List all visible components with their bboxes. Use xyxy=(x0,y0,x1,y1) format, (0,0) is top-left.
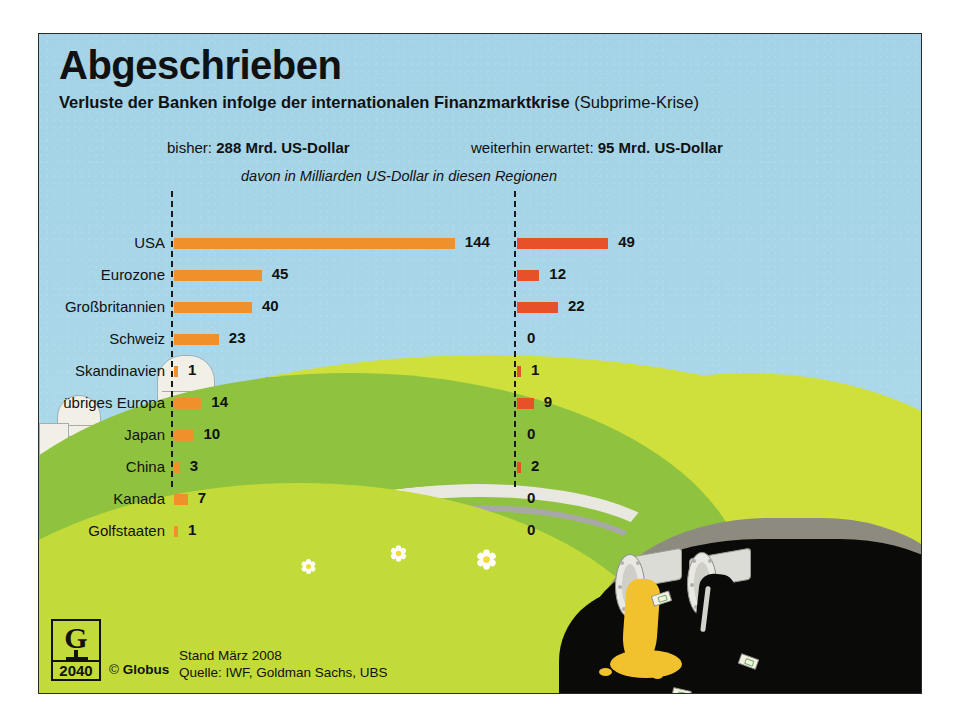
category-label: übriges Europa xyxy=(39,394,165,411)
value-bisher: 1 xyxy=(188,521,196,538)
copyright: © Globus xyxy=(109,662,169,677)
left-total: bisher: 288 Mrd. US-Dollar xyxy=(167,139,350,156)
bar-bisher xyxy=(174,334,219,345)
bar-erwartet xyxy=(517,270,539,281)
bar-bisher xyxy=(174,494,188,505)
category-label: Japan xyxy=(39,426,165,443)
bar-bisher xyxy=(174,302,252,313)
page-subtitle: Verluste der Banken infolge der internat… xyxy=(59,93,699,112)
left-total-label: bisher: xyxy=(167,139,216,156)
subtitle-light: (Subprime-Krise) xyxy=(570,93,699,111)
value-bisher: 3 xyxy=(190,457,198,474)
value-erwartet: 0 xyxy=(527,329,535,346)
globus-logo: G 2040 xyxy=(51,619,101,681)
value-erwartet: 1 xyxy=(531,361,539,378)
unit-note: davon in Milliarden US-Dollar in diesen … xyxy=(189,168,609,184)
chart-row: Golfstaaten10 xyxy=(39,517,921,549)
value-bisher: 1 xyxy=(188,361,196,378)
chart-row: Japan100 xyxy=(39,421,921,453)
source-line: Quelle: IWF, Goldman Sachs, UBS xyxy=(179,665,388,680)
value-bisher: 7 xyxy=(198,489,206,506)
infographic-canvas: Abgeschrieben Verluste der Banken infolg… xyxy=(0,0,960,724)
value-bisher: 40 xyxy=(262,297,279,314)
chart-row: China32 xyxy=(39,453,921,485)
right-total-label: weiterhin erwartet: xyxy=(471,139,598,156)
bar-erwartet xyxy=(517,302,558,313)
value-bisher: 14 xyxy=(211,393,228,410)
value-bisher: 144 xyxy=(465,233,490,250)
bar-erwartet xyxy=(517,462,521,473)
logo-number: 2040 xyxy=(53,660,99,679)
category-label: Skandinavien xyxy=(39,362,165,379)
category-label: USA xyxy=(39,234,165,251)
chart-row: Großbritannien4022 xyxy=(39,293,921,325)
bar-bisher xyxy=(174,270,262,281)
bar-erwartet xyxy=(517,398,534,409)
category-label: Eurozone xyxy=(39,266,165,283)
value-erwartet: 0 xyxy=(527,489,535,506)
bar-bisher xyxy=(174,430,194,441)
left-total-value: 288 Mrd. US-Dollar xyxy=(216,139,349,156)
copyright-name: Globus xyxy=(123,662,170,677)
category-label: China xyxy=(39,458,165,475)
chart-row: Schweiz230 xyxy=(39,325,921,357)
category-label: Golfstaaten xyxy=(39,522,165,539)
bar-bisher xyxy=(174,526,178,537)
right-total: weiterhin erwartet: 95 Mrd. US-Dollar xyxy=(471,139,723,156)
value-erwartet: 2 xyxy=(531,457,539,474)
gold-blob xyxy=(652,672,663,679)
value-erwartet: 49 xyxy=(618,233,635,250)
category-label: Großbritannien xyxy=(39,298,165,315)
bar-bisher xyxy=(174,462,180,473)
category-label: Schweiz xyxy=(39,330,165,347)
chart-row: Kanada70 xyxy=(39,485,921,517)
bar-erwartet xyxy=(517,238,608,249)
date-line: Stand März 2008 xyxy=(179,648,282,663)
subtitle-bold: Verluste der Banken infolge der internat… xyxy=(59,93,570,111)
bar-chart: USA14449Eurozone4512Großbritannien4022Sc… xyxy=(39,189,921,499)
value-bisher: 45 xyxy=(272,265,289,282)
value-erwartet: 22 xyxy=(568,297,585,314)
bar-bisher xyxy=(174,238,455,249)
value-erwartet: 0 xyxy=(527,521,535,538)
bar-bisher xyxy=(174,366,178,377)
category-label: Kanada xyxy=(39,490,165,507)
value-bisher: 10 xyxy=(204,425,221,442)
gold-pool xyxy=(610,650,682,678)
bar-bisher xyxy=(174,398,201,409)
value-erwartet: 9 xyxy=(544,393,552,410)
copyright-symbol: © xyxy=(109,662,119,677)
gold-blob xyxy=(599,668,612,676)
page-title: Abgeschrieben xyxy=(59,43,341,88)
flower-icon xyxy=(301,559,316,574)
chart-row: USA14449 xyxy=(39,229,921,261)
bar-erwartet xyxy=(517,366,521,377)
chart-row: Eurozone4512 xyxy=(39,261,921,293)
chart-row: Skandinavien11 xyxy=(39,357,921,389)
chart-row: übriges Europa149 xyxy=(39,389,921,421)
value-bisher: 23 xyxy=(229,329,246,346)
value-erwartet: 12 xyxy=(549,265,566,282)
value-erwartet: 0 xyxy=(527,425,535,442)
flower-icon xyxy=(476,549,496,569)
poster-frame: Abgeschrieben Verluste der Banken infolg… xyxy=(38,33,922,694)
right-total-value: 95 Mrd. US-Dollar xyxy=(598,139,723,156)
